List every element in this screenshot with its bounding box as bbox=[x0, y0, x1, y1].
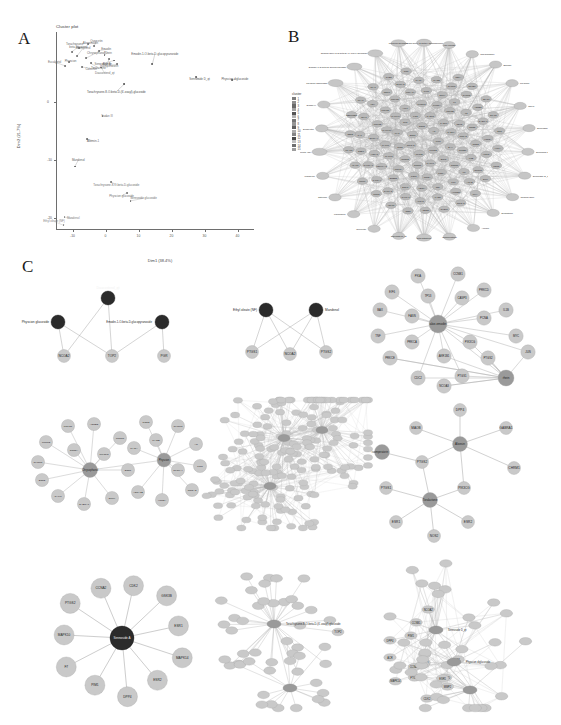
svg-text:ESR1: ESR1 bbox=[125, 469, 132, 472]
subnetwork-c8: TOP2Torachrysone-8-O-beta-D-(6'-oxayl)-g… bbox=[212, 548, 388, 714]
svg-text:TP53: TP53 bbox=[425, 294, 432, 298]
svg-text:PRKG1: PRKG1 bbox=[64, 425, 73, 428]
svg-text:PRKCA: PRKCA bbox=[407, 340, 417, 344]
svg-text:PTGS1: PTGS1 bbox=[457, 374, 467, 378]
panel-letter-a: A bbox=[18, 30, 30, 47]
svg-text:TOP2: TOP2 bbox=[108, 354, 116, 358]
svg-text:CDK2: CDK2 bbox=[456, 123, 463, 125]
scatter-point bbox=[151, 63, 153, 65]
svg-text:Torachrysone-8-O-beta-D-(6'-ox: Torachrysone-8-O-beta-D-(6'-oxayl)-gluco… bbox=[321, 52, 368, 54]
svg-text:Quercetin: Quercetin bbox=[356, 228, 367, 230]
svg-text:SLC6A2: SLC6A2 bbox=[396, 83, 405, 85]
svg-text:NOS2: NOS2 bbox=[430, 534, 439, 538]
svg-text:DPP4: DPP4 bbox=[439, 94, 445, 96]
scatter-point bbox=[76, 55, 78, 57]
panel-letter-b: B bbox=[288, 28, 299, 45]
scatter-point bbox=[123, 83, 125, 85]
svg-text:INSR: INSR bbox=[405, 210, 411, 212]
scatter-point bbox=[130, 200, 132, 202]
svg-text:BAX: BAX bbox=[377, 308, 383, 312]
svg-text:GSK3B: GSK3B bbox=[446, 110, 454, 112]
svg-text:Torachrysone: Torachrysone bbox=[521, 196, 536, 198]
svg-text:PRKCE: PRKCE bbox=[391, 98, 399, 100]
svg-text:NR3C2: NR3C2 bbox=[402, 158, 410, 160]
svg-text:ESR2: ESR2 bbox=[39, 479, 46, 482]
scatter-point bbox=[108, 58, 110, 60]
svg-text:ODC1: ODC1 bbox=[384, 91, 391, 93]
subnetwork-c9: ACRMAPK14TP53CCNA1GSK3BCDK2NCOA2PIM1PRKC… bbox=[382, 550, 550, 714]
svg-text:PRKCA: PRKCA bbox=[395, 168, 403, 170]
scatter-point-label: Quercetin bbox=[90, 39, 103, 42]
svg-text:EGFR: EGFR bbox=[402, 186, 408, 188]
svg-text:BCL2: BCL2 bbox=[441, 158, 447, 160]
svg-text:HSP90AA1: HSP90AA1 bbox=[376, 165, 388, 167]
svg-text:PTGS1: PTGS1 bbox=[381, 486, 392, 490]
svg-text:PRKCB: PRKCB bbox=[374, 123, 382, 125]
svg-text:NR3C1: NR3C1 bbox=[414, 164, 422, 166]
scatter-point-label: Sennoside glucoside bbox=[130, 197, 157, 200]
svg-text:DPP4: DPP4 bbox=[109, 497, 116, 500]
svg-text:CASP3: CASP3 bbox=[457, 296, 467, 300]
svg-text:CCNB1: CCNB1 bbox=[412, 621, 421, 625]
svg-text:NCOA3: NCOA3 bbox=[439, 384, 449, 388]
svg-text:OPRM1: OPRM1 bbox=[474, 169, 483, 171]
svg-text:MAPK10: MAPK10 bbox=[382, 129, 391, 131]
svg-text:ALOX5: ALOX5 bbox=[417, 200, 425, 202]
svg-text:CDC2: CDC2 bbox=[414, 376, 422, 380]
svg-text:ADRB2: ADRB2 bbox=[90, 423, 99, 426]
svg-text:Mandenol: Mandenol bbox=[305, 175, 316, 177]
subnetwork-c7: Sennoside ACDK2GSK3BESR1MAPK14ESR2DPP4PI… bbox=[30, 552, 210, 714]
svg-text:Ethyl oleate (NF): Ethyl oleate (NF) bbox=[233, 308, 257, 312]
svg-text:VCAM1: VCAM1 bbox=[345, 149, 353, 151]
svg-text:Emodin: Emodin bbox=[504, 64, 513, 66]
svg-text:SERPINE1: SERPINE1 bbox=[346, 114, 358, 116]
svg-text:PTGS2: PTGS2 bbox=[430, 149, 438, 151]
svg-text:XDH: XDH bbox=[370, 103, 375, 105]
scatter-point-label: Torachrysone-8-O-beta-D-(6'-oxayl)-gluco… bbox=[87, 90, 146, 93]
svg-text:CCNB1: CCNB1 bbox=[453, 272, 463, 276]
svg-text:PGR: PGR bbox=[161, 354, 169, 358]
svg-text:PIM1: PIM1 bbox=[91, 683, 99, 687]
scatter-point bbox=[64, 65, 66, 67]
scatter-point bbox=[74, 166, 76, 168]
svg-text:NCOA2: NCOA2 bbox=[285, 352, 296, 356]
svg-text:HTR2A: HTR2A bbox=[484, 138, 492, 140]
svg-text:CYP3A4: CYP3A4 bbox=[373, 179, 382, 181]
svg-text:NFKB1: NFKB1 bbox=[468, 85, 476, 87]
scatter-point bbox=[85, 57, 87, 59]
svg-text:aloe-emodin: aloe-emodin bbox=[430, 322, 447, 326]
svg-text:CCNA2: CCNA2 bbox=[459, 135, 467, 137]
svg-text:PIK3CG: PIK3CG bbox=[418, 103, 426, 105]
svg-text:Physcion: Physcion bbox=[159, 458, 170, 462]
svg-text:PTGS1: PTGS1 bbox=[247, 350, 258, 354]
svg-text:VEGFA: VEGFA bbox=[418, 187, 426, 189]
cluster-legend-swatch bbox=[292, 148, 296, 151]
svg-text:CHRM1: CHRM1 bbox=[34, 461, 43, 464]
x-tick-label: 0 bbox=[105, 234, 107, 238]
svg-text:NOS2: NOS2 bbox=[469, 126, 476, 128]
svg-text:TNF: TNF bbox=[375, 334, 381, 338]
svg-text:rhein: rhein bbox=[503, 376, 510, 380]
svg-text:PRKCD: PRKCD bbox=[479, 288, 489, 292]
svg-text:MAPK14: MAPK14 bbox=[391, 115, 400, 117]
svg-text:PTGS1: PTGS1 bbox=[116, 437, 125, 440]
svg-text:EIF6: EIF6 bbox=[389, 290, 395, 294]
svg-text:CHRM1: CHRM1 bbox=[508, 466, 520, 470]
svg-text:SRC: SRC bbox=[497, 130, 502, 132]
panel-c-subnetworks: Daucosterol_qtPhyscion glucosideEmodin-1… bbox=[20, 262, 548, 718]
subnetwork-c4: ChrysophanolPhyscionPRKG1ADRB2PTGS2PTGS1… bbox=[28, 404, 208, 528]
svg-text:DPP4: DPP4 bbox=[123, 695, 132, 699]
svg-text:MAPK1: MAPK1 bbox=[427, 162, 435, 164]
svg-text:CCND1: CCND1 bbox=[451, 164, 459, 166]
scatter-point-label: Physcion bbox=[65, 59, 77, 62]
svg-text:MAPK14: MAPK14 bbox=[176, 656, 189, 660]
svg-text:PKIA: PKIA bbox=[415, 274, 422, 278]
subnetwork-c1: Daucosterol_qtPhyscion glucosideEmodin-1… bbox=[24, 270, 200, 386]
svg-text:isoimperatorin: isoimperatorin bbox=[372, 450, 389, 454]
svg-text:MAOA: MAOA bbox=[130, 447, 138, 450]
svg-text:NCOA2: NCOA2 bbox=[59, 354, 70, 358]
x-tick bbox=[139, 230, 140, 232]
svg-text:SOD1: SOD1 bbox=[358, 150, 365, 152]
svg-text:HTR3A: HTR3A bbox=[483, 153, 491, 155]
svg-text:Eucalyptol: Eucalyptol bbox=[303, 128, 314, 130]
